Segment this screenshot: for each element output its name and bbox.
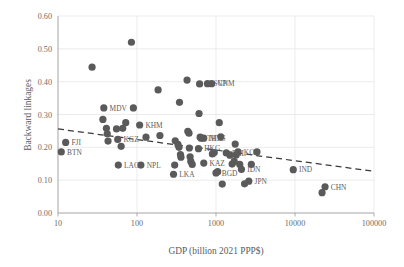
data-point xyxy=(115,161,122,168)
data-point-label: BTN xyxy=(67,148,82,157)
data-point xyxy=(58,148,65,155)
data-point-label: KOR xyxy=(244,148,260,157)
data-point-label: KGZ xyxy=(124,135,140,144)
data-point xyxy=(130,104,137,111)
data-point-label: NPL xyxy=(147,161,161,170)
data-point xyxy=(104,130,111,137)
y-tick-label: 0.50 xyxy=(38,45,52,54)
data-point-label: KAZ xyxy=(210,159,226,168)
x-tick-label: 100 xyxy=(131,219,143,228)
data-point xyxy=(186,144,193,151)
data-point-label: LAO xyxy=(124,161,140,170)
data-point xyxy=(175,144,182,151)
y-tick-labels: 0.000.100.200.300.400.500.60 xyxy=(38,12,52,218)
data-point-label: HKG xyxy=(204,144,221,153)
data-point xyxy=(232,140,239,147)
data-point xyxy=(245,178,252,185)
x-tick-label: 1000 xyxy=(208,219,224,228)
data-point xyxy=(176,99,183,106)
y-tick-label: 0.30 xyxy=(38,111,52,120)
data-point xyxy=(196,80,203,87)
data-point-label: BGD xyxy=(222,169,238,178)
data-point xyxy=(214,168,221,175)
data-point xyxy=(88,64,95,71)
y-tick-label: 0.00 xyxy=(38,209,52,218)
x-tick-label: 100000 xyxy=(362,219,387,228)
plot-canvas: 0.000.100.200.300.400.500.60 10100100010… xyxy=(0,0,404,267)
gridlines xyxy=(58,16,374,213)
data-point xyxy=(156,132,163,139)
data-point-label: CHN xyxy=(331,183,347,192)
data-point xyxy=(189,161,196,168)
data-point xyxy=(99,116,106,123)
data-point xyxy=(238,166,245,173)
x-tick-label: 10 xyxy=(54,219,62,228)
data-point xyxy=(318,189,325,196)
data-point xyxy=(155,86,162,93)
data-point xyxy=(114,136,121,143)
data-point-label: MDV xyxy=(110,104,128,113)
y-tick-label: 0.20 xyxy=(38,143,52,152)
data-point xyxy=(122,119,129,126)
data-point xyxy=(128,39,135,46)
data-point xyxy=(170,171,177,178)
data-point-label: JPN xyxy=(255,177,268,186)
data-point xyxy=(183,76,190,83)
data-point xyxy=(100,104,107,111)
data-point-label: VNM xyxy=(217,79,235,88)
scatter-chart: 0.000.100.200.300.400.500.60 10100100010… xyxy=(0,0,404,267)
data-point-label: MYS xyxy=(210,134,226,143)
data-point-label: FJI xyxy=(71,138,81,147)
y-tick-label: 0.40 xyxy=(38,78,52,87)
y-tick-label: 0.60 xyxy=(38,12,52,21)
data-point-label: KHM xyxy=(145,121,163,130)
data-point-label: IND xyxy=(299,165,313,174)
data-point xyxy=(219,181,226,188)
x-axis-title: GDP (billion 2021 PPP$) xyxy=(168,246,263,257)
data-point xyxy=(177,154,184,161)
data-point xyxy=(185,130,192,137)
data-point xyxy=(113,125,120,132)
data-point xyxy=(142,134,149,141)
y-tick-label: 0.10 xyxy=(38,176,52,185)
data-point xyxy=(171,161,178,168)
x-tick-labels: 10100100010000100000 xyxy=(54,219,386,228)
data-point-label: IDN xyxy=(247,165,261,174)
data-point xyxy=(195,145,202,152)
data-point xyxy=(200,159,207,166)
data-point-label: LKA xyxy=(179,170,195,179)
data-point xyxy=(195,110,202,117)
data-point xyxy=(62,139,69,146)
data-point xyxy=(136,121,143,128)
data-point xyxy=(104,137,111,144)
y-axis-title: Backward linkages xyxy=(23,79,33,151)
data-point xyxy=(290,166,297,173)
x-tick-label: 10000 xyxy=(285,219,305,228)
data-point xyxy=(216,119,223,126)
